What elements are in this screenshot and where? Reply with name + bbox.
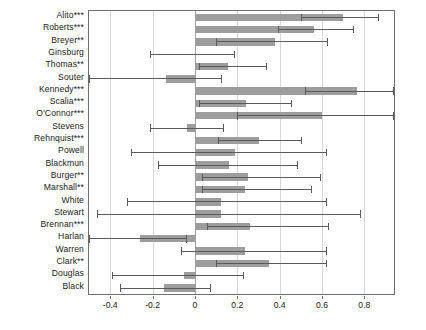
error-bar-cap-lower <box>120 284 121 292</box>
x-axis-tick-label: 0.8 <box>358 300 370 310</box>
error-bar-cap-upper <box>326 247 327 255</box>
error-bar <box>278 29 353 30</box>
error-bar <box>216 263 326 264</box>
error-bar-cap-lower <box>278 26 279 34</box>
y-axis-label: Souter <box>0 71 84 83</box>
error-bar-cap-upper <box>353 26 354 34</box>
error-bar <box>202 177 320 178</box>
error-bar-cap-upper <box>326 198 327 206</box>
y-axis-label: Clark** <box>0 255 84 267</box>
x-axis-tick-label: 0 <box>193 300 198 310</box>
bar-row <box>89 233 394 245</box>
x-axis-tick <box>237 296 238 299</box>
error-bar <box>97 214 360 215</box>
error-bar-cap-upper <box>378 14 379 22</box>
error-bar-cap-upper <box>301 137 302 145</box>
bar-row <box>89 48 394 60</box>
y-axis-label: Black <box>0 280 84 292</box>
error-bar-cap-lower <box>181 247 182 255</box>
error-bar-cap-lower <box>131 149 132 157</box>
bar-row <box>89 282 394 294</box>
error-bar-cap-lower <box>216 260 217 268</box>
error-bar <box>150 54 234 55</box>
error-bar-cap-lower <box>97 210 98 218</box>
error-bar-cap-lower <box>301 14 302 22</box>
y-axis-label: Thomas** <box>0 58 84 70</box>
x-axis-tick <box>195 296 196 299</box>
bar-row <box>89 184 394 196</box>
x-axis: -0.4-0.200.20.40.60.8 <box>88 296 395 316</box>
error-bar-cap-upper <box>360 210 361 218</box>
bar-row <box>89 221 394 233</box>
bar-row <box>89 208 394 220</box>
x-axis-tick-label: 0.6 <box>316 300 328 310</box>
error-bar <box>218 140 301 141</box>
error-bar-cap-lower <box>202 174 203 182</box>
x-axis-tick <box>280 296 281 299</box>
bar-row <box>89 12 394 24</box>
error-bar <box>202 189 311 190</box>
error-bar-cap-lower <box>89 235 90 243</box>
x-axis-tick-label: -0.2 <box>145 300 160 310</box>
bar-row <box>89 147 394 159</box>
error-bar <box>216 41 327 42</box>
error-bar <box>89 78 221 79</box>
error-bar-cap-upper <box>223 124 224 132</box>
error-bar-cap-lower <box>89 75 90 83</box>
error-bar-cap-upper <box>243 272 244 280</box>
x-axis-tick <box>364 296 365 299</box>
y-axis-label: Harlan <box>0 230 84 242</box>
error-bar-cap-upper <box>234 51 235 59</box>
error-bar <box>89 238 186 239</box>
x-axis-tick <box>322 296 323 299</box>
y-axis-label: Scalia*** <box>0 95 84 107</box>
y-axis-label: Roberts*** <box>0 21 84 33</box>
bar-row <box>89 122 394 134</box>
error-bar-cap-lower <box>305 87 306 95</box>
error-bar-cap-upper <box>297 161 298 169</box>
error-bar <box>301 17 378 18</box>
bar-row <box>89 61 394 73</box>
error-bar-cap-lower <box>150 124 151 132</box>
y-axis-label: White <box>0 194 84 206</box>
error-bar-cap-upper <box>266 63 267 71</box>
error-bar-cap-lower <box>199 63 200 71</box>
bar-row <box>89 171 394 183</box>
y-axis-label: Brennan*** <box>0 218 84 230</box>
error-bar <box>131 152 326 153</box>
error-bar-cap-lower <box>207 223 208 231</box>
error-bar-cap-upper <box>311 186 312 194</box>
x-axis-tick <box>110 296 111 299</box>
y-axis-label: Kennedy*** <box>0 83 84 95</box>
error-bar-cap-upper <box>291 100 292 108</box>
error-bar-cap-upper <box>326 260 327 268</box>
bar-row <box>89 245 394 257</box>
error-bar <box>305 91 393 92</box>
error-bar-cap-lower <box>218 137 219 145</box>
y-axis-label: Alito*** <box>0 9 84 21</box>
error-bar-cap-upper <box>186 235 187 243</box>
error-bar <box>199 66 266 67</box>
error-bar-cap-lower <box>150 51 151 59</box>
error-bar-cap-upper <box>328 223 329 231</box>
bar-row <box>89 270 394 282</box>
error-bar-cap-lower <box>127 198 128 206</box>
bar-row <box>89 110 394 122</box>
error-bar <box>237 115 393 116</box>
y-axis-category-labels: Alito***Roberts***Breyer**GinsburgThomas… <box>0 10 84 295</box>
error-bar-cap-lower <box>199 100 200 108</box>
error-bar <box>127 201 326 202</box>
bar-row <box>89 73 394 85</box>
error-bar-cap-upper <box>327 38 328 46</box>
error-bar <box>120 288 210 289</box>
chart-root: Alito***Roberts***Breyer**GinsburgThomas… <box>0 0 426 330</box>
error-bar-cap-upper <box>221 75 222 83</box>
x-axis-tick-label: -0.4 <box>103 300 118 310</box>
y-axis-label: Blackmun <box>0 157 84 169</box>
y-axis-label: Rehnquist*** <box>0 132 84 144</box>
y-axis-label: Burger** <box>0 169 84 181</box>
error-bar <box>158 165 297 166</box>
y-axis-label: Stevens <box>0 120 84 132</box>
error-bar-cap-lower <box>202 186 203 194</box>
bar-row <box>89 85 394 97</box>
